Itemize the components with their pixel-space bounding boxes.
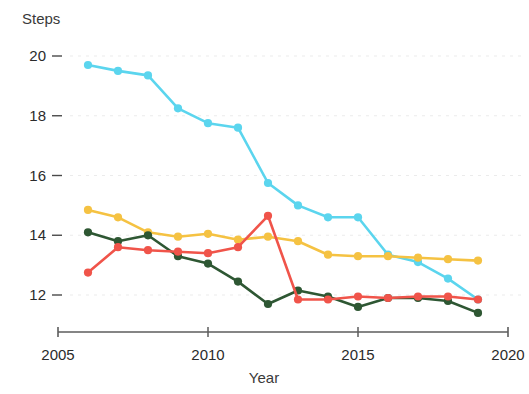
x-tick-label: 2020 [491, 346, 524, 363]
data-point-yellow [444, 255, 452, 263]
x-tick-label: 2015 [341, 346, 374, 363]
x-axis-title: Year [249, 369, 279, 386]
y-tick-label: 12 [29, 286, 46, 303]
data-point-cyan [354, 213, 362, 221]
data-point-cyan [264, 179, 272, 187]
y-axis-title: Steps [22, 10, 60, 27]
data-point-yellow [414, 254, 422, 262]
data-point-yellow [204, 230, 212, 238]
data-point-red [204, 249, 212, 257]
data-point-yellow [174, 233, 182, 241]
series-group [84, 61, 482, 317]
x-tick-label-group: 2005201020152020 [41, 346, 524, 363]
data-point-cyan [174, 104, 182, 112]
data-point-yellow [384, 252, 392, 260]
data-point-cyan [444, 275, 452, 283]
data-point-red [324, 295, 332, 303]
y-tick-label: 16 [29, 167, 46, 184]
data-point-red [414, 292, 422, 300]
data-point-red [354, 292, 362, 300]
data-point-red [384, 294, 392, 302]
data-point-yellow [294, 237, 302, 245]
y-tick-label: 20 [29, 47, 46, 64]
x-tick-label: 2010 [191, 346, 224, 363]
data-point-yellow [114, 213, 122, 221]
data-point-cyan [84, 61, 92, 69]
data-point-cyan [294, 201, 302, 209]
data-point-dark-green [354, 303, 362, 311]
data-point-yellow [354, 252, 362, 260]
data-point-dark-green [144, 231, 152, 239]
data-point-dark-green [234, 278, 242, 286]
data-point-red [294, 295, 302, 303]
data-point-yellow [324, 251, 332, 259]
line-chart: 1214161820 2005201020152020 Steps Year [0, 0, 529, 394]
data-point-red [474, 295, 482, 303]
data-point-red [114, 243, 122, 251]
data-point-red [84, 269, 92, 277]
y-tick-label: 14 [29, 226, 46, 243]
data-point-dark-green [474, 309, 482, 317]
x-tick-label: 2005 [41, 346, 74, 363]
data-point-red [174, 248, 182, 256]
data-point-yellow [264, 233, 272, 241]
data-point-cyan [234, 124, 242, 132]
data-point-cyan [144, 71, 152, 79]
data-point-red [144, 246, 152, 254]
x-axis-group [58, 327, 508, 337]
data-point-cyan [324, 213, 332, 221]
data-point-yellow [474, 257, 482, 265]
x-axis-line [58, 327, 508, 337]
data-point-red [264, 212, 272, 220]
data-point-dark-green [264, 300, 272, 308]
data-point-red [444, 292, 452, 300]
data-point-cyan [204, 119, 212, 127]
data-point-yellow [84, 206, 92, 214]
chart-page: 1214161820 2005201020152020 Steps Year [0, 0, 529, 394]
y-tick-group: 1214161820 [29, 47, 62, 303]
data-point-dark-green [204, 260, 212, 268]
data-point-red [234, 243, 242, 251]
y-tick-label: 18 [29, 107, 46, 124]
data-point-cyan [114, 67, 122, 75]
data-point-dark-green [84, 228, 92, 236]
